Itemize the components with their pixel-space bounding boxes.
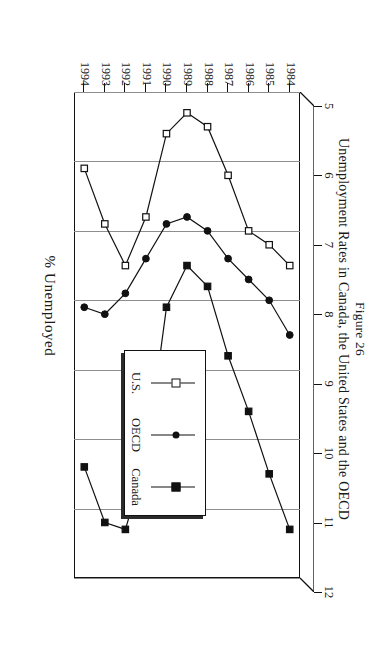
data-point-us <box>225 172 231 178</box>
figure-wrapper: Figure 26 Unemployment Rates in Canada, … <box>0 0 376 651</box>
year-tick-label: 1991 <box>138 46 153 86</box>
data-point-canada <box>102 519 108 525</box>
data-point-us <box>245 228 251 234</box>
data-point-canada <box>245 408 251 414</box>
value-tick-label: 6 <box>321 172 336 178</box>
legend-label: Canada <box>128 468 143 505</box>
data-point-oecd <box>101 311 108 318</box>
legend-inner: CanadaOECDU.S. <box>125 351 205 515</box>
data-point-oecd <box>225 255 232 262</box>
data-point-oecd <box>266 297 273 304</box>
figure-title: Unemployment Rates in Canada, the United… <box>335 64 351 594</box>
figure-page: Figure 26 Unemployment Rates in Canada, … <box>0 0 376 651</box>
year-tick-label: 1990 <box>159 46 174 86</box>
year-tick-label: 1985 <box>262 46 277 86</box>
data-point-us <box>81 165 87 171</box>
data-point-canada <box>163 304 169 310</box>
year-tick-label: 1989 <box>180 46 195 86</box>
plot-area: 56789101112 1984198519861987198819891990… <box>74 92 314 592</box>
data-point-oecd <box>143 255 150 262</box>
year-tick-label: 1984 <box>282 46 297 86</box>
value-tick-label: 7 <box>321 242 336 248</box>
data-point-canada <box>204 283 210 289</box>
year-tick-label: 1988 <box>200 46 215 86</box>
data-point-canada <box>184 262 190 268</box>
value-tick-label: 5 <box>321 103 336 109</box>
year-tick-label: 1992 <box>118 46 133 86</box>
data-point-us <box>143 214 149 220</box>
figure-number: Figure 26 <box>352 64 368 594</box>
value-tick-label: 11 <box>321 517 336 529</box>
data-point-oecd <box>122 290 129 297</box>
value-tick-label: 9 <box>321 381 336 387</box>
figure-caption: Figure 26 Unemployment Rates in Canada, … <box>335 64 368 594</box>
legend-label: U.S. <box>128 372 143 394</box>
data-point-us <box>287 262 293 268</box>
data-point-us <box>266 242 272 248</box>
legend-marker-open-square-icon <box>172 379 181 388</box>
data-point-oecd <box>204 227 211 234</box>
data-point-us <box>163 130 169 136</box>
value-tick-label: 10 <box>321 447 336 460</box>
legend-label: OECD <box>128 418 143 452</box>
data-point-oecd <box>286 332 293 339</box>
plot-3d-top-slab <box>298 92 314 592</box>
value-tick-label: 12 <box>321 586 336 599</box>
series-line-oecd <box>84 217 289 335</box>
rotated-figure-container: Figure 26 Unemployment Rates in Canada, … <box>0 0 376 651</box>
data-point-oecd <box>245 276 252 283</box>
series-line-us <box>84 113 289 266</box>
data-point-us <box>184 110 190 116</box>
data-point-us <box>122 262 128 268</box>
data-point-canada <box>81 464 87 470</box>
legend-marker-filled-circle-icon <box>173 432 180 439</box>
year-tick-label: 1993 <box>97 46 112 86</box>
year-tick-label: 1987 <box>221 46 236 86</box>
legend-item-us[interactable]: U.S. <box>125 357 205 409</box>
data-point-oecd <box>81 304 88 311</box>
value-axis-title: % Unemployed <box>41 196 58 416</box>
data-point-oecd <box>163 221 170 228</box>
data-point-oecd <box>184 214 191 221</box>
data-point-canada <box>225 353 231 359</box>
legend-item-canada[interactable]: Canada <box>125 461 205 513</box>
legend-item-oecd[interactable]: OECD <box>125 409 205 461</box>
year-tick-label: 1994 <box>77 46 92 86</box>
year-tick-label: 1986 <box>241 46 256 86</box>
data-point-canada <box>287 526 293 532</box>
legend[interactable]: CanadaOECDU.S. <box>124 350 206 516</box>
data-point-canada <box>122 526 128 532</box>
data-point-us <box>204 124 210 130</box>
value-tick-label: 8 <box>321 311 336 317</box>
legend-marker-filled-square-icon <box>172 483 181 492</box>
value-gridline <box>74 578 300 579</box>
data-point-canada <box>266 471 272 477</box>
data-point-us <box>102 221 108 227</box>
